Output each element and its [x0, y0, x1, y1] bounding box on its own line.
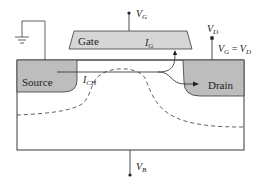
body-voltage-label: VB — [136, 162, 146, 174]
channel-current-label: ICH — [83, 75, 96, 87]
body-terminal-dot — [128, 173, 131, 176]
drain-terminal-dot — [210, 36, 213, 39]
diagram-graphics — [0, 0, 261, 184]
drain-voltage-label: VD — [207, 24, 218, 36]
gate-current-label: IG — [145, 38, 153, 50]
source-ground-wire — [22, 21, 45, 60]
drain-label: Drain — [208, 80, 233, 91]
source-label: Source — [22, 77, 53, 88]
gate-label: Gate — [78, 36, 99, 47]
ground-icon — [15, 37, 29, 43]
gate-current-arrow-icon — [173, 50, 177, 55]
bias-condition-label: VG = VD — [218, 44, 251, 56]
mosfet-diagram: Source Drain Gate IG ICH VG VD VB VG = V… — [0, 0, 261, 184]
gate-terminal-dot — [127, 11, 130, 14]
gate-voltage-label: VG — [136, 9, 147, 21]
